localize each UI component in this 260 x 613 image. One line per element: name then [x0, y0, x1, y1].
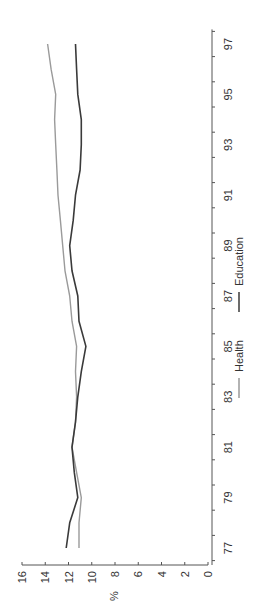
- value-tick-label: 4: [156, 571, 168, 577]
- year-tick-label: 79: [222, 491, 234, 503]
- year-tick-label: 93: [222, 139, 234, 151]
- series-line-health: [48, 44, 82, 548]
- year-tick-label: 83: [222, 391, 234, 403]
- year-tick-label: 77: [222, 542, 234, 554]
- value-tick-label: 8: [109, 571, 121, 577]
- value-tick-label: 16: [16, 571, 28, 583]
- year-tick-label: 81: [222, 441, 234, 453]
- year-axis: 7779818385878991939597: [212, 29, 234, 565]
- value-tick-label: 14: [39, 571, 51, 583]
- year-tick-label: 95: [222, 88, 234, 100]
- value-axis-title: %: [108, 591, 120, 601]
- value-axis: 0246810121416: [16, 562, 214, 583]
- legend: HealthEducation: [233, 237, 245, 398]
- year-tick-label: 91: [222, 189, 234, 201]
- value-tick-label: 10: [86, 571, 98, 583]
- value-tick-label: 2: [179, 571, 191, 577]
- legend-label-education: Education: [233, 237, 245, 286]
- year-tick-label: 97: [222, 38, 234, 50]
- legend-label-health: Health: [233, 340, 245, 372]
- plot-area: [48, 44, 86, 548]
- year-tick-label: 87: [222, 290, 234, 302]
- value-tick-label: 6: [132, 571, 144, 577]
- value-tick-label: 0: [202, 571, 214, 577]
- value-tick-label: 12: [63, 571, 75, 583]
- line-chart: 0246810121416 7779818385878991939597 % H…: [0, 0, 260, 613]
